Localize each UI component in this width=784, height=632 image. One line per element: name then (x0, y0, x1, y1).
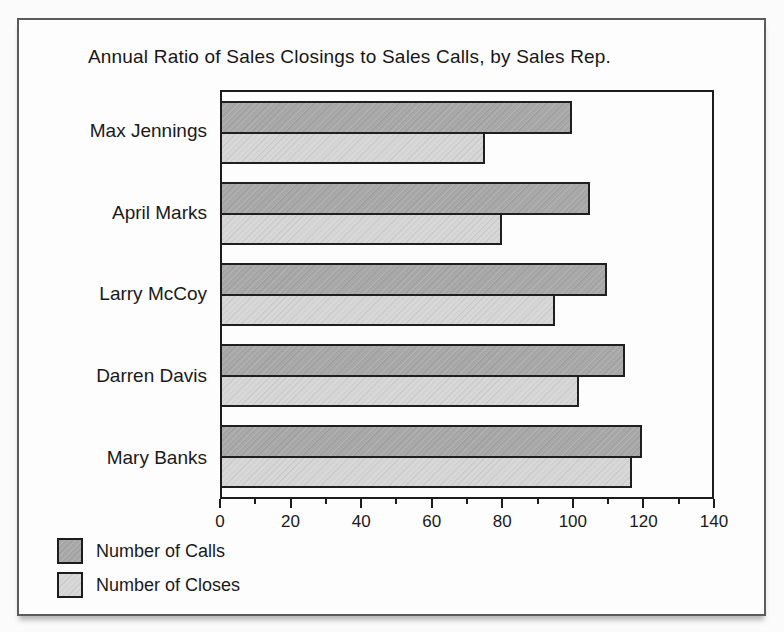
chart-title: Annual Ratio of Sales Closings to Sales … (19, 46, 680, 68)
bar-group (222, 92, 712, 173)
plot-area (220, 90, 714, 499)
bar-number-of-calls (222, 101, 572, 134)
legend-label: Number of Calls (96, 541, 225, 562)
x-axis-major-tick (642, 499, 644, 508)
bar-number-of-closes (222, 456, 632, 488)
bar-number-of-calls (222, 344, 625, 377)
x-axis-major-tick (572, 499, 574, 508)
x-axis-minor-tick (325, 499, 327, 504)
x-axis-major-tick (501, 499, 503, 508)
bar-group (222, 335, 712, 416)
category-label: Larry McCoy (19, 254, 207, 336)
x-axis-tick-label: 80 (493, 512, 512, 532)
legend-item: Number of Closes (57, 572, 240, 598)
x-axis-major-tick (290, 499, 292, 508)
bar-group (222, 254, 712, 335)
category-label: April Marks (19, 172, 207, 254)
x-axis-tick-label: 100 (559, 512, 587, 532)
legend-item: Number of Calls (57, 538, 240, 564)
category-label: Mary Banks (19, 417, 207, 499)
x-axis-tick-label: 20 (281, 512, 300, 532)
x-axis-minor-tick (395, 499, 397, 504)
x-axis-tick-label: 0 (215, 512, 224, 532)
bar-number-of-closes (222, 213, 502, 245)
category-label: Darren Davis (19, 335, 207, 417)
bar-number-of-calls (222, 263, 607, 296)
x-axis-minor-tick (537, 499, 539, 504)
bar-number-of-closes (222, 132, 485, 164)
bar-number-of-calls (222, 182, 590, 215)
x-axis-tick-label: 140 (700, 512, 728, 532)
x-axis-tick-label: 40 (352, 512, 371, 532)
bar-number-of-calls (222, 425, 642, 458)
category-labels: Max JenningsApril MarksLarry McCoyDarren… (19, 90, 207, 499)
chart-figure: Annual Ratio of Sales Closings to Sales … (17, 18, 766, 616)
page: Annual Ratio of Sales Closings to Sales … (0, 0, 784, 632)
x-axis-minor-tick (607, 499, 609, 504)
legend-swatch (57, 538, 83, 564)
category-label: Max Jennings (19, 90, 207, 172)
bar-group (222, 173, 712, 254)
x-axis-tick-label: 120 (629, 512, 657, 532)
x-axis: 020406080100120140 (220, 499, 714, 545)
legend: Number of CallsNumber of Closes (57, 538, 240, 598)
legend-label: Number of Closes (96, 575, 240, 596)
legend-swatch (57, 572, 83, 598)
x-axis-major-tick (219, 499, 221, 508)
x-axis-major-tick (360, 499, 362, 508)
x-axis-minor-tick (678, 499, 680, 504)
x-axis-minor-tick (466, 499, 468, 504)
x-axis-minor-tick (254, 499, 256, 504)
x-axis-major-tick (431, 499, 433, 508)
bar-number-of-closes (222, 294, 555, 326)
x-axis-tick-label: 60 (422, 512, 441, 532)
x-axis-major-tick (713, 499, 715, 508)
bar-group (222, 416, 712, 497)
bar-number-of-closes (222, 375, 579, 407)
